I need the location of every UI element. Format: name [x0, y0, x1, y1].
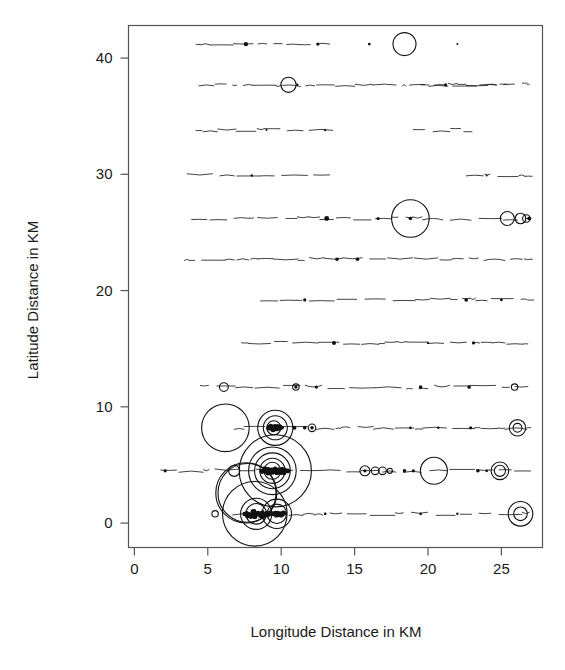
y-tick-label: 0: [104, 514, 112, 531]
data-dot: [377, 217, 380, 220]
data-dot: [368, 43, 371, 46]
x-tick-label: 10: [273, 560, 290, 577]
data-dot: [456, 513, 458, 515]
data-dot: [469, 426, 472, 429]
data-dot: [472, 341, 475, 344]
x-tick-label: 25: [493, 560, 510, 577]
x-tick-label: 20: [420, 560, 437, 577]
data-dot: [303, 426, 307, 430]
data-dot: [363, 469, 366, 472]
data-dot: [412, 469, 415, 472]
data-dot: [419, 512, 422, 515]
data-dot: [444, 83, 447, 86]
data-dot: [409, 217, 413, 221]
chart-page: 0510152025 010203040 Longitude Distance …: [0, 0, 565, 670]
data-dot: [266, 129, 268, 131]
data-dot: [316, 43, 319, 46]
data-dot: [251, 174, 253, 176]
y-tick-label: 40: [96, 49, 113, 66]
cluster-dot: [281, 513, 284, 516]
data-dot: [315, 386, 318, 389]
data-dot: [486, 175, 488, 177]
cluster-dot: [271, 426, 276, 431]
data-dot: [310, 426, 314, 430]
data-dot: [335, 257, 339, 261]
y-axis-title: Latitude Distance in KM: [24, 221, 41, 379]
data-dot: [500, 299, 503, 302]
data-dot: [324, 512, 327, 515]
data-dot: [409, 426, 412, 429]
x-axis-title: Longitude Distance in KM: [251, 623, 422, 640]
x-tick-label: 5: [204, 560, 212, 577]
cluster-dot: [281, 469, 283, 471]
scatter-plot-figure: 0510152025 010203040 Longitude Distance …: [0, 0, 565, 670]
x-tick-label: 0: [130, 560, 138, 577]
data-dot: [485, 469, 488, 472]
data-dot: [324, 216, 329, 221]
cluster-dot: [285, 469, 290, 474]
cluster-dot: [276, 512, 280, 516]
data-dot: [324, 129, 326, 131]
cluster-dot: [277, 425, 279, 427]
y-tick-label: 30: [96, 165, 113, 182]
y-tick-label: 10: [96, 398, 113, 415]
data-dot: [419, 385, 423, 389]
x-tick-label: 15: [346, 560, 363, 577]
data-dot: [294, 386, 297, 389]
data-dot: [467, 385, 471, 389]
data-dot: [476, 469, 480, 473]
data-dot: [456, 43, 458, 45]
transect-segment: [532, 260, 533, 261]
cluster-dot: [248, 514, 253, 519]
cluster-dot: [267, 427, 270, 430]
data-dot: [464, 298, 468, 302]
data-dot: [403, 469, 407, 473]
cluster-dot: [257, 511, 260, 514]
data-dot: [332, 341, 336, 345]
data-dot: [164, 469, 167, 472]
data-dot: [427, 342, 429, 344]
data-dot: [303, 298, 306, 301]
y-tick-label: 20: [96, 282, 113, 299]
data-dot: [437, 427, 439, 429]
data-dot: [244, 42, 248, 46]
data-dot: [356, 257, 360, 261]
